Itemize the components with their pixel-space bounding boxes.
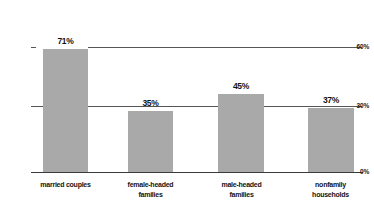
value-label-male-headed-families: 45% <box>218 81 264 91</box>
bar-nonfamily-households <box>308 108 354 172</box>
category-label-line: families <box>105 190 196 200</box>
category-label-married-couples: married couples <box>20 180 111 190</box>
x-axis-baseline <box>31 172 363 173</box>
ytick-label-0: 0% <box>341 168 369 175</box>
bar-female-headed-families <box>128 111 173 172</box>
value-label-married-couples: 71% <box>43 36 88 46</box>
value-label-nonfamily-households: 37% <box>308 95 354 105</box>
bar-male-headed-families <box>218 94 264 172</box>
category-label-female-headed-families: female-headed families <box>105 180 196 199</box>
ytick-label-60: 60% <box>341 43 369 50</box>
category-label-line: nonfamily <box>285 180 374 190</box>
category-label-line: female-headed <box>105 180 196 190</box>
category-label-line: families <box>196 190 287 200</box>
value-label-female-headed-families: 35% <box>128 98 173 108</box>
category-label-line: households <box>285 190 374 200</box>
tick-mark-30 <box>31 106 36 107</box>
category-label-male-headed-families: male-headed families <box>196 180 287 199</box>
category-label-line: male-headed <box>196 180 287 190</box>
tick-mark-60 <box>31 47 36 48</box>
gridline-60 <box>88 47 362 48</box>
category-label-nonfamily-households: nonfamily households <box>285 180 374 199</box>
category-label-line: married couples <box>20 180 111 190</box>
bar-married-couples <box>43 49 88 172</box>
